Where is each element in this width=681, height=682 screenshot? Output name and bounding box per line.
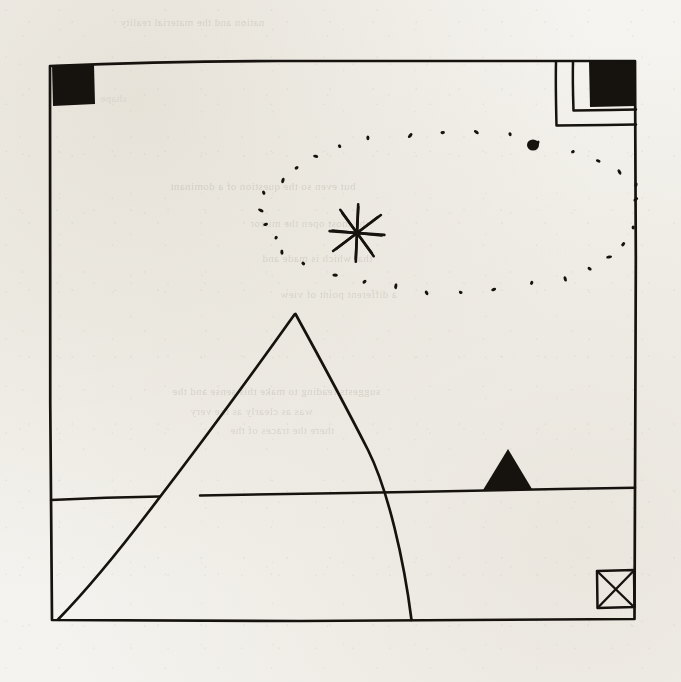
orbit-dot bbox=[294, 166, 299, 171]
orbit-dot bbox=[617, 169, 623, 176]
solid-dot-planet bbox=[527, 140, 539, 151]
large-pyramid-left-edge bbox=[58, 315, 295, 620]
orbit-dot bbox=[407, 132, 413, 138]
dotted-orbit bbox=[257, 129, 638, 296]
radiant-star bbox=[330, 204, 385, 262]
orbit-dot bbox=[281, 177, 286, 183]
orbit-dot bbox=[366, 135, 369, 140]
orbit-dot bbox=[632, 226, 635, 230]
orbit-dot bbox=[571, 150, 576, 154]
orbit-dot bbox=[563, 276, 568, 282]
orbit-dot bbox=[274, 235, 279, 240]
sketch-page: nation and the material realitybut even … bbox=[0, 0, 681, 682]
orbit-dot bbox=[508, 132, 512, 137]
orbit-dot bbox=[440, 131, 445, 135]
orbit-dot bbox=[529, 280, 534, 285]
page-caption: Hand-drawn ink sketch bbox=[0, 669, 681, 680]
orbit-dot bbox=[473, 129, 479, 135]
orbit-dot bbox=[313, 154, 319, 158]
orbit-dot bbox=[362, 279, 367, 284]
orbit-dot bbox=[263, 222, 268, 226]
orbit-dot bbox=[261, 190, 266, 195]
orbit-dot bbox=[620, 241, 626, 247]
orbit-dot bbox=[332, 274, 338, 277]
orbit-dot bbox=[394, 283, 398, 289]
large-pyramid-right-edge bbox=[296, 314, 412, 620]
orbit-dot bbox=[301, 261, 306, 266]
orbit-dot bbox=[337, 144, 342, 149]
top-left-filled-square bbox=[52, 65, 95, 107]
orbit-dot bbox=[257, 208, 264, 213]
orbit-dot bbox=[491, 287, 497, 292]
orbit-dot bbox=[595, 159, 601, 164]
orbit-dot bbox=[280, 249, 284, 255]
frame-border bbox=[50, 61, 636, 621]
small-filled-triangle bbox=[483, 449, 532, 490]
orbit-dot bbox=[424, 290, 429, 296]
top-right-filled-square bbox=[589, 61, 636, 107]
ink-drawing bbox=[0, 0, 681, 682]
orbit-dot bbox=[458, 290, 463, 294]
orbit-dot bbox=[587, 266, 592, 271]
horizon-line bbox=[51, 488, 635, 500]
orbit-dot bbox=[606, 255, 612, 259]
